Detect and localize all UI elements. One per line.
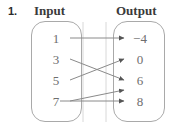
input-column-heading: Input bbox=[34, 3, 65, 19]
problem-number: 1. bbox=[8, 5, 17, 17]
output-column-heading: Output bbox=[116, 3, 156, 19]
input-value: 7 bbox=[49, 94, 63, 110]
input-value: 5 bbox=[49, 73, 63, 89]
input-value: 1 bbox=[49, 31, 63, 47]
output-value: −4 bbox=[128, 31, 152, 47]
output-value: 6 bbox=[128, 73, 152, 89]
output-value: 8 bbox=[128, 94, 152, 110]
mapping-diagram-figure: 1. Input Output 1 3 5 7 −4 0 6 8 bbox=[0, 0, 181, 126]
output-value: 0 bbox=[128, 52, 152, 68]
input-value: 3 bbox=[49, 52, 63, 68]
